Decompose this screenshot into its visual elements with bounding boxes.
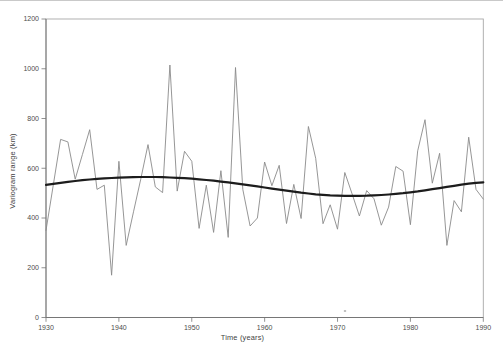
x-tick-label: 1950	[184, 324, 200, 331]
x-tick-label: 1930	[38, 324, 54, 331]
x-tick-label: 1970	[330, 324, 346, 331]
y-tick-label: 0	[35, 314, 39, 321]
trend-series-line	[46, 177, 483, 196]
x-tick-label: 1990	[476, 324, 492, 331]
x-axis-title: Time (years)	[221, 333, 265, 342]
y-tick-label: 600	[27, 165, 39, 172]
y-tick-label: 1200	[23, 15, 39, 22]
y-axis-title: Variogram range (km)	[8, 133, 17, 208]
y-tick-label: 800	[27, 115, 39, 122]
observed-series-line	[46, 65, 483, 275]
generated-chart-layer: 0200400600800100012001930194019501960197…	[23, 15, 491, 331]
x-tick-label: 1940	[111, 324, 127, 331]
y-tick-label: 400	[27, 214, 39, 221]
variogram-range-time-series-chart: 0200400600800100012001930194019501960197…	[0, 0, 503, 359]
y-tick-label: 200	[27, 264, 39, 271]
y-tick-label: 1000	[23, 65, 39, 72]
scan-artifact-dot	[344, 310, 347, 312]
plot-canvas: 0200400600800100012001930194019501960197…	[0, 1, 503, 359]
x-tick-label: 1960	[257, 324, 273, 331]
x-tick-label: 1980	[403, 324, 419, 331]
